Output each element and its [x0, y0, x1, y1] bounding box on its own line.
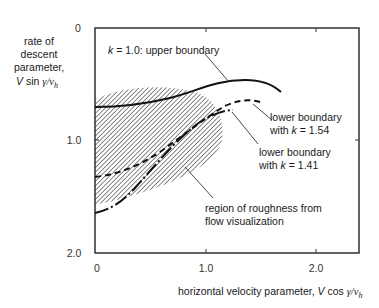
annotation-lower-141-line1: lower boundary: [259, 146, 332, 158]
y-axis-label-line3: parameter,: [14, 61, 64, 73]
annotation-region-line2: flow visualization: [205, 215, 284, 227]
annotation-lower-154-line2: with k = 1.54: [269, 124, 329, 136]
x-axis-label: horizontal velocity parameter, V cos γ/v…: [178, 285, 362, 300]
annotation-lower-141-line2: with k = 1.41: [258, 159, 318, 171]
annotation-lower-154-line1: lower boundary: [270, 111, 343, 123]
y-tick-1: 1.0: [67, 134, 82, 146]
annotation-upper-boundary: k = 1.0: upper boundary: [108, 44, 220, 56]
x-tick-0: 0: [94, 262, 100, 274]
x-tick-2: 2.0: [309, 262, 324, 274]
y-tick-0: 0: [75, 22, 81, 34]
y-axis-label-line2: descent: [21, 48, 58, 60]
y-tick-2: 2.0: [67, 247, 82, 259]
annotation-region-line1: region of roughness from: [205, 202, 322, 214]
chart-canvas: rate of descent parameter, V sin γ/vh 0 …: [0, 0, 379, 308]
x-tick-1: 1.0: [199, 262, 214, 274]
y-axis-label-line1: rate of: [24, 35, 54, 47]
roughness-region: [95, 87, 223, 204]
y-axis-label-formula: V sin γ/vh: [16, 75, 58, 90]
